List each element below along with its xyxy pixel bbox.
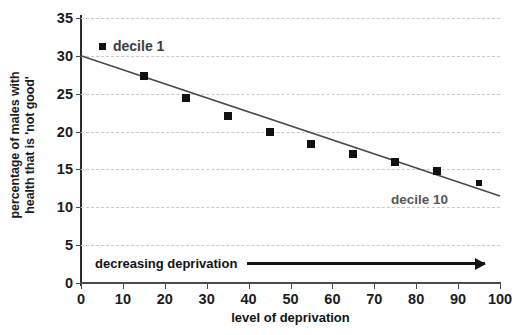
- x-tick-mark: [500, 283, 501, 289]
- data-point: [307, 140, 315, 148]
- x-tick-mark: [416, 283, 417, 289]
- x-tick-label: 30: [199, 291, 215, 307]
- x-tick-label: 80: [408, 291, 424, 307]
- arrow-caption: decreasing deprivation: [95, 256, 237, 271]
- x-tick-label: 100: [488, 291, 512, 307]
- x-tick-mark: [207, 283, 208, 289]
- data-point: [224, 112, 232, 120]
- y-axis-title-line1: percentage of males with: [8, 72, 22, 219]
- x-tick-label: 90: [450, 291, 466, 307]
- y-tick-label: 20: [57, 124, 73, 140]
- data-point: [182, 94, 190, 102]
- decile-10-label: decile 10: [391, 192, 448, 207]
- x-tick-label: 10: [115, 291, 131, 307]
- data-point: [266, 128, 274, 136]
- x-tick-mark: [165, 283, 166, 289]
- y-tick-label: 25: [57, 86, 73, 102]
- legend: decile 1: [99, 38, 164, 54]
- y-tick-label: 10: [57, 199, 73, 215]
- x-axis-title: level of deprivation: [81, 310, 500, 325]
- x-tick-mark: [249, 283, 250, 289]
- data-point: [349, 150, 357, 158]
- x-tick-label: 50: [282, 291, 298, 307]
- deprivation-direction-annotation: decreasing deprivation: [95, 256, 485, 271]
- x-tick-label: 60: [324, 291, 340, 307]
- arrow-head-icon: [475, 258, 486, 270]
- x-tick-mark: [458, 283, 459, 289]
- legend-marker-icon: [99, 43, 106, 50]
- data-point: [140, 72, 148, 80]
- legend-label-decile-1: decile 1: [113, 38, 164, 54]
- y-tick-label: 15: [57, 161, 73, 177]
- y-tick-label: 5: [65, 237, 73, 253]
- y-tick-label: 0: [65, 275, 73, 291]
- x-tick-mark: [374, 283, 375, 289]
- y-tick-label: 30: [57, 48, 73, 64]
- trendline: [81, 18, 500, 283]
- data-point: [433, 167, 441, 175]
- x-tick-mark: [123, 283, 124, 289]
- x-tick-mark: [291, 283, 292, 289]
- x-tick-label: 20: [157, 291, 173, 307]
- data-point: [391, 158, 399, 166]
- x-tick-label: 0: [77, 291, 85, 307]
- y-axis-title-line2: health that is 'not good': [23, 72, 38, 219]
- x-tick-mark: [332, 283, 333, 289]
- plot-area: 05101520253035 0102030405060708090100 de…: [81, 18, 500, 283]
- x-tick-mark: [81, 283, 82, 289]
- arrow-line: [247, 262, 485, 265]
- x-tick-label: 70: [366, 291, 382, 307]
- y-axis-title: percentage of males with health that is …: [0, 0, 46, 290]
- chart-figure: percentage of males with health that is …: [0, 0, 521, 335]
- data-point: [476, 180, 482, 186]
- x-tick-label: 40: [241, 291, 257, 307]
- y-tick-label: 35: [57, 10, 73, 26]
